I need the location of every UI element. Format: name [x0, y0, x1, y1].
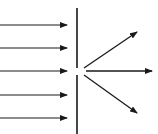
- incident-rays: [0, 25, 67, 118]
- diffraction-diagram: [0, 0, 158, 134]
- diffracted-rays: [84, 32, 152, 113]
- diffracted-ray-arrow: [84, 32, 137, 68]
- diffracted-ray-arrow: [84, 75, 137, 113]
